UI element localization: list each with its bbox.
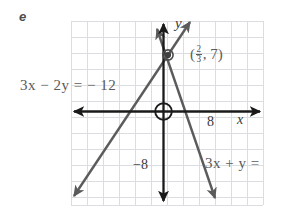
grid-lines xyxy=(71,21,264,206)
equation-label-line1: 3x − 2y = − 12 xyxy=(20,78,116,93)
fraction-numerator: 2 xyxy=(196,45,203,54)
intersection-point-label: (23, 7) xyxy=(190,45,223,65)
coordinate-plane-graph xyxy=(0,0,294,213)
y-axis-label: y xyxy=(175,16,182,31)
graph-figure: e xyxy=(0,0,294,213)
x-axis-tick-label-8: 8 xyxy=(207,115,214,129)
x-axis-label: x xyxy=(237,113,243,127)
fraction-denominator: 3 xyxy=(196,54,203,64)
point-fraction: 23 xyxy=(196,45,203,65)
point-open-paren: ( xyxy=(190,46,195,62)
equation-label-line2: 3x + y = xyxy=(205,156,260,171)
point-y-value: , 7) xyxy=(203,46,223,62)
y-axis-tick-label-neg8: −8 xyxy=(133,158,148,172)
line-3x-minus-2y-equals-neg12 xyxy=(74,22,190,196)
